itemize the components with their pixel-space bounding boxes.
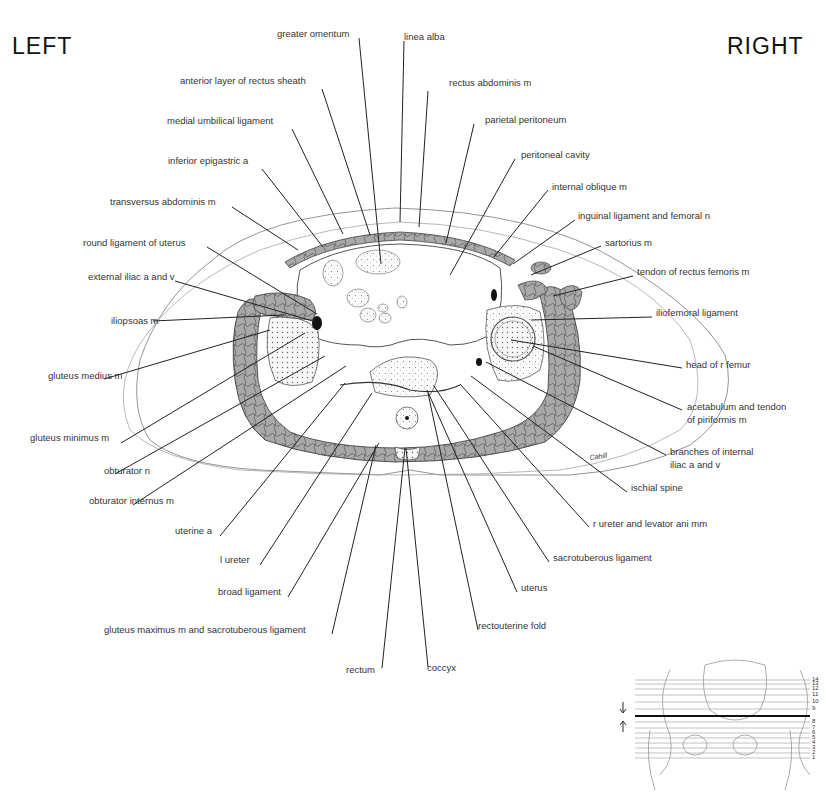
anatomy-label: broad ligament	[218, 586, 281, 598]
anatomy-label: l ureter	[220, 554, 250, 566]
anatomy-label: acetabulum and tendon	[687, 401, 786, 413]
anatomy-label: inferior epigastric a	[168, 155, 248, 167]
anatomy-label: coccyx	[427, 662, 456, 674]
leader-line	[419, 91, 428, 227]
anatomy-label: iliopsoas m	[111, 315, 159, 327]
anatomy-label: anterior layer of rectus sheath	[180, 75, 306, 87]
anatomy-label: rectum	[346, 664, 375, 676]
left-external-iliac-vessel	[312, 316, 322, 330]
arrow-up-icon	[620, 721, 626, 732]
anatomy-label: tendon of rectus femoris m	[637, 266, 749, 278]
leader-line	[382, 448, 405, 668]
anatomy-label: gluteus minimus m	[30, 432, 109, 444]
anatomy-label: iliofemoral ligament	[656, 307, 738, 319]
anatomy-label: gluteus maximus m and sacrotuberous liga…	[104, 624, 306, 636]
right-iliac-vessel	[491, 289, 497, 301]
anatomy-label: gluteus medius m	[48, 370, 122, 382]
leader-line	[406, 448, 428, 667]
anatomy-label: iliac a and v	[670, 459, 720, 471]
level-number: 9	[812, 705, 815, 711]
level-number: 10	[812, 698, 819, 704]
anatomy-label: uterine a	[175, 525, 212, 537]
anatomy-label: rectus abdominis m	[449, 77, 531, 89]
anatomy-label: internal oblique m	[552, 181, 627, 193]
anatomy-label: ischial spine	[631, 482, 683, 494]
anatomy-label: external iliac a and v	[88, 271, 175, 283]
anatomy-label: inguinal ligament and femoral n	[578, 210, 710, 222]
anatomy-label: sartorius m	[605, 237, 652, 249]
leader-line	[400, 41, 404, 222]
anatomy-label: transversus abdominis m	[110, 196, 216, 208]
anatomy-label: sacrotuberous ligament	[553, 552, 652, 564]
anatomy-label: rectouterine fold	[478, 620, 546, 632]
anatomy-label: obturator internus m	[89, 495, 174, 507]
anatomy-label: head of r femur	[686, 359, 750, 371]
level-number: 11	[812, 691, 818, 697]
level-reference-inset: 1413121110987654321	[600, 640, 839, 793]
anatomy-label: r ureter and levator ani mm	[593, 518, 707, 530]
arrow-down-icon	[620, 702, 626, 713]
level-number: 1	[812, 754, 815, 760]
anatomy-label: medial umbilical ligament	[167, 115, 273, 127]
anatomy-label: round ligament of uterus	[83, 237, 185, 249]
anatomy-label: branches of internal	[670, 446, 753, 458]
anatomy-label: uterus	[521, 582, 547, 594]
anatomy-label: peritoneal cavity	[521, 149, 590, 161]
anatomy-label: obturator n	[104, 465, 150, 477]
anatomy-label: of piriformis m	[687, 414, 747, 426]
anatomy-label: linea alba	[404, 31, 445, 43]
right-femur-head	[491, 317, 535, 361]
pelvis-outline	[648, 660, 810, 790]
anatomy-label: parietal peritoneum	[485, 114, 566, 126]
anatomy-label: greater omentum	[277, 28, 349, 40]
